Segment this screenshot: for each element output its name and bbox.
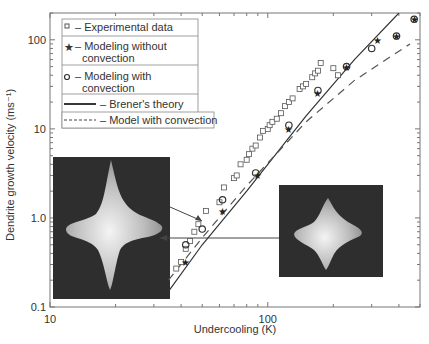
experimental-point (238, 162, 243, 167)
experimental-point (203, 208, 208, 213)
x-axis-label: Undercooling (K) (194, 323, 277, 335)
experimental-point (331, 66, 336, 71)
modeling-without-convection-point: ★ (313, 88, 322, 99)
experimental-point (318, 60, 323, 65)
experimental-point (304, 81, 309, 86)
experimental-point (247, 152, 252, 157)
y-tick-label: 100 (28, 34, 46, 46)
legend-item-with-convection: – Modeling with (75, 70, 151, 82)
chart-svg: 101000.11.010100Undercooling (K)Dendrite… (0, 0, 429, 344)
chart: 101000.11.010100Undercooling (K)Dendrite… (0, 0, 429, 344)
experimental-point (278, 111, 283, 116)
legend-item-experimental: – Experimental data (75, 21, 174, 33)
x-tick-label: 10 (44, 313, 56, 325)
experimental-point (260, 128, 265, 133)
modeling-without-convection-point: ★ (342, 62, 351, 73)
experimental-point (257, 135, 262, 140)
modeling-without-convection-point: ★ (410, 14, 419, 25)
legend-star-icon: ★ (64, 41, 74, 53)
legend-item-without-convection-2: convection (82, 52, 135, 64)
modeling-without-convection-point: ★ (218, 206, 227, 217)
experimental-point (290, 96, 295, 101)
modeling-without-convection-point: ★ (181, 257, 190, 268)
modeling-with-convection-point (368, 45, 374, 51)
legend-item-without-convection: – Modeling without (75, 40, 167, 52)
experimental-point (222, 185, 227, 190)
experimental-point (274, 116, 279, 121)
experimental-point (174, 266, 179, 271)
experimental-point (244, 157, 249, 162)
modeling-without-convection-point: ★ (253, 170, 262, 181)
modeling-without-convection-point: ★ (284, 124, 293, 135)
modeling-without-convection-point: ★ (392, 31, 401, 42)
modeling-with-convection-point (199, 226, 205, 232)
experimental-point (192, 229, 197, 234)
experimental-point (253, 143, 258, 148)
legend-item-with-convection-2: convection (82, 82, 135, 94)
legend-item-model-convection: – Model with convection (100, 114, 217, 126)
experimental-point (315, 68, 320, 73)
legend-item-brener: – Brener's theory (100, 98, 184, 110)
experimental-point (335, 73, 340, 78)
y-axis-label: Dendrite growth velocity (ms⁻¹) (4, 89, 16, 241)
y-tick-label: 0.1 (31, 301, 46, 313)
y-tick-label: 1.0 (31, 212, 46, 224)
modeling-without-convection-point: ★ (373, 35, 382, 46)
experimental-point (234, 173, 239, 178)
y-tick-label: 10 (34, 123, 46, 135)
